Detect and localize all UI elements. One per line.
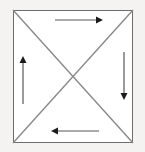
figure-container [0, 0, 145, 152]
diagram-svg [0, 0, 145, 152]
